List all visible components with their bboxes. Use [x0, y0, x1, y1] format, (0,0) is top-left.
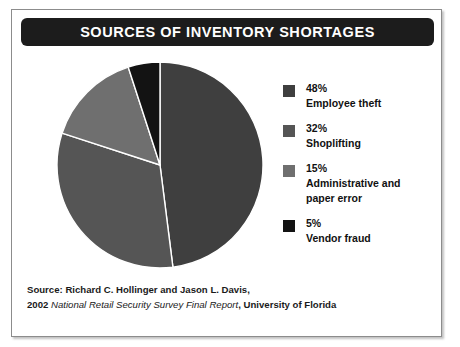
legend-swatch-vendor-fraud: [283, 220, 295, 232]
source-line-1: Source: Richard C. Hollinger and Jason L…: [27, 282, 427, 297]
legend-label-shoplifting: Shoplifting: [306, 136, 433, 150]
legend-label-administrative-line2: paper error: [306, 191, 433, 205]
legend-percent-vendor-fraud: 5%: [306, 217, 433, 230]
page-title: SOURCES OF INVENTORY SHORTAGES: [80, 25, 375, 40]
legend-swatch-employee-theft: [283, 85, 295, 97]
legend-percent-administrative: 15%: [306, 162, 433, 175]
legend-swatch-shoplifting: [283, 125, 295, 137]
legend: 48% Employee theft 32% Shoplifting 15% A…: [283, 82, 433, 257]
legend-item-employee-theft: 48% Employee theft: [283, 82, 433, 110]
source-report-title: National Retail Security Survey Final Re…: [51, 299, 238, 310]
legend-item-vendor-fraud: 5% Vendor fraud: [283, 217, 433, 245]
legend-item-shoplifting: 32% Shoplifting: [283, 122, 433, 150]
source-note: Source: Richard C. Hollinger and Jason L…: [27, 282, 427, 312]
title-banner: SOURCES OF INVENTORY SHORTAGES: [21, 18, 434, 46]
figure-root: SOURCES OF INVENTORY SHORTAGES 48% Emplo…: [0, 0, 460, 347]
legend-swatch-administrative: [283, 165, 295, 177]
legend-percent-employee-theft: 48%: [306, 82, 433, 95]
source-publisher: , University of Florida: [238, 299, 336, 310]
legend-item-administrative: 15% Administrative and paper error: [283, 162, 433, 205]
source-line-2: 2002 National Retail Security Survey Fin…: [27, 297, 427, 312]
pie-chart-svg: [56, 61, 264, 269]
legend-label-administrative: Administrative and: [306, 176, 433, 190]
legend-percent-shoplifting: 32%: [306, 122, 433, 135]
pie-chart: [56, 61, 264, 269]
pie-slice-employee-theft: [160, 62, 263, 267]
legend-label-employee-theft: Employee theft: [306, 96, 433, 110]
legend-label-vendor-fraud: Vendor fraud: [306, 231, 433, 245]
source-year: 2002: [27, 299, 51, 310]
